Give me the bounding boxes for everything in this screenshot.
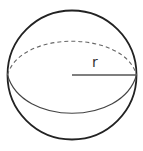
equator-back-dashed bbox=[8, 41, 137, 75]
equator-front-solid bbox=[8, 75, 137, 113]
radius-label: r bbox=[92, 54, 98, 70]
sphere-diagram: r bbox=[0, 0, 143, 151]
